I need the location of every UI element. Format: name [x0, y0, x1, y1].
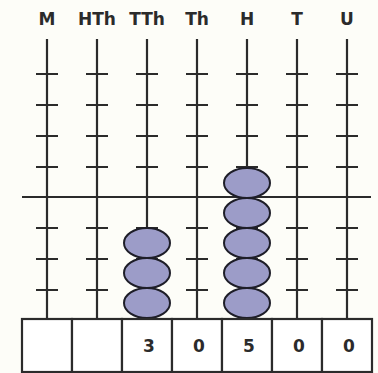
column-header: HTh [78, 9, 116, 29]
column-header: T [291, 9, 303, 29]
digit-value: 5 [243, 336, 255, 356]
digit-box [72, 319, 122, 372]
abacus-diagram: MHThTThThHTU 30500 [0, 0, 378, 373]
digit-value: 3 [143, 336, 155, 356]
bead [124, 258, 170, 288]
column-header: U [340, 9, 354, 29]
column-header: TTh [129, 9, 165, 29]
digit-value: 0 [193, 336, 205, 356]
column-header: M [39, 9, 56, 29]
bead [224, 258, 270, 288]
column-header: H [240, 9, 254, 29]
digit-boxes: 30500 [22, 319, 372, 372]
bead [224, 168, 270, 198]
column-headers: MHThTThThHTU [39, 9, 354, 29]
bead [124, 288, 170, 318]
digit-value: 0 [343, 336, 355, 356]
bead [124, 228, 170, 258]
bead [224, 198, 270, 228]
column-header: Th [185, 9, 209, 29]
digit-value: 0 [293, 336, 305, 356]
bead [224, 228, 270, 258]
abacus-rods [36, 39, 358, 319]
digit-box [22, 319, 72, 372]
bead [224, 288, 270, 318]
